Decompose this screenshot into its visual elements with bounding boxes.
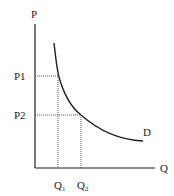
q1-label: Q1 (54, 179, 66, 193)
p1-label: P1 (14, 70, 26, 82)
curve-label: D (143, 126, 151, 138)
demand-diagram: P Q P1 P2 D Q1 Q2 (0, 0, 174, 196)
p2-label: P2 (14, 109, 26, 121)
x-axis-label: Q (160, 162, 168, 174)
demand-curve (54, 43, 143, 141)
q2-label: Q2 (77, 179, 89, 193)
y-axis-label: P (31, 8, 37, 20)
